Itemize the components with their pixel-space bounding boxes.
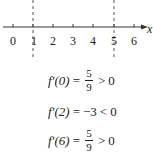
equation-f-prime-0: f′(0) = 5 9 > 0 <box>48 68 115 93</box>
equation-rhs: 0 <box>108 133 115 149</box>
tick-label: 4 <box>90 34 96 48</box>
tick-label: 0 <box>10 34 16 48</box>
numerator: 5 <box>86 68 92 79</box>
tick-label: 3 <box>70 34 76 48</box>
equation-rhs: 0 <box>108 73 115 89</box>
equation-rhs: 0 <box>110 104 117 120</box>
fraction: 5 9 <box>85 128 93 153</box>
equation-lhs: f′(0) <box>48 73 70 89</box>
denominator: 9 <box>86 82 92 93</box>
equals-sign: = <box>73 73 80 89</box>
tick-label: 1 <box>31 34 37 48</box>
number-line: 0 1 2 3 4 5 6 x <box>0 0 153 70</box>
equation-value: −3 <box>83 104 97 120</box>
equation-f-prime-2: f′(2) = −3 < 0 <box>48 104 117 120</box>
axis-label: x <box>146 22 153 36</box>
relation-sign: > <box>98 73 105 89</box>
equals-sign: = <box>73 104 80 120</box>
numerator: 5 <box>86 128 92 139</box>
tick-label: 6 <box>131 34 137 48</box>
tick-label: 5 <box>111 34 117 48</box>
fraction: 5 9 <box>85 68 93 93</box>
equation-lhs: f′(6) <box>48 133 70 149</box>
relation-sign: > <box>98 133 105 149</box>
tick-label: 2 <box>50 34 56 48</box>
equals-sign: = <box>73 133 80 149</box>
equation-f-prime-6: f′(6) = 5 9 > 0 <box>48 128 115 153</box>
equation-lhs: f′(2) <box>48 104 70 120</box>
denominator: 9 <box>86 142 92 153</box>
relation-sign: < <box>100 104 107 120</box>
